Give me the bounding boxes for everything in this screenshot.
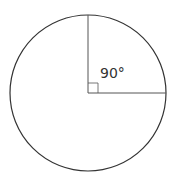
circle-diagram: 90° [0, 0, 176, 184]
diagram-canvas: 90° [0, 0, 176, 184]
right-angle-marker [88, 83, 98, 93]
angle-label: 90° [100, 65, 125, 81]
